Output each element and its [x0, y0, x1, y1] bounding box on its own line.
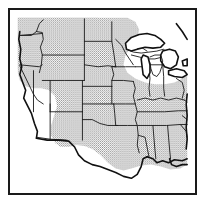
map-figure	[0, 0, 207, 209]
map-canvas	[10, 10, 195, 193]
lake-michigan	[141, 55, 150, 78]
map-layers	[10, 10, 195, 193]
lake-erie	[169, 69, 188, 78]
lake-ontario	[182, 59, 187, 66]
map-frame	[8, 8, 197, 195]
lake-huron	[161, 49, 179, 69]
stipple-northwest-block	[18, 18, 98, 87]
coast-atlantic	[186, 94, 187, 149]
